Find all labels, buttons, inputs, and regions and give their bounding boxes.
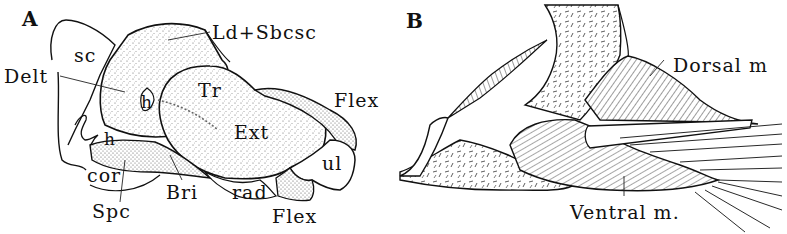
label-bri: Bri [166,181,198,203]
label-dorsal-m: Dorsal m [673,54,768,76]
panel-a-letter: A [21,7,38,31]
bone-humerus-head [75,115,98,145]
label-ext: Ext [234,121,269,143]
label-sc: sc [74,44,96,66]
label-delt: Delt [4,65,48,87]
label-cor: cor [87,164,121,186]
label-tr: Tr [198,79,222,101]
label-flex-lower: Flex [272,205,317,227]
label-rad: rad [232,181,268,203]
panel-a: A Ld+Sbcsc sc Delt [4,7,379,227]
label-spc: Spc [92,200,131,222]
label-flex-upper: Flex [334,89,379,111]
anatomical-figure: A Ld+Sbcsc sc Delt [0,0,787,234]
label-ul: ul [322,152,342,174]
label-ventral-m: Ventral m. [569,201,680,223]
panel-b: B Dors [400,5,782,232]
panel-b-letter: B [406,9,423,33]
label-h-upper: h [141,92,153,112]
label-h-lower: h [104,129,116,149]
label-ld-sbcsc: Ld+Sbcsc [212,21,317,43]
